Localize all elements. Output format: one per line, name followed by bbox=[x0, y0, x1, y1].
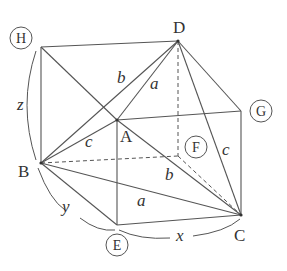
tetrahedron-in-box-diagram: D A B C H G F E b a c c b a z y x bbox=[0, 0, 287, 271]
edge-B-F bbox=[41, 156, 178, 163]
arc-x-2 bbox=[193, 219, 240, 236]
edge-E-C bbox=[117, 215, 241, 225]
svg-text:E: E bbox=[113, 238, 122, 253]
edge-D-G bbox=[178, 41, 241, 111]
svg-text:F: F bbox=[192, 140, 200, 155]
edge-B-E bbox=[41, 163, 117, 225]
label-c-right: c bbox=[222, 140, 230, 159]
edge-B-A bbox=[41, 120, 117, 163]
edge-A-G bbox=[117, 111, 241, 120]
vertex-dot-D bbox=[176, 39, 179, 42]
label-A: A bbox=[120, 127, 133, 146]
circled-label-F: F bbox=[185, 136, 207, 158]
dimension-arcs bbox=[27, 51, 240, 238]
edge-H-A bbox=[41, 47, 117, 120]
label-x: x bbox=[175, 226, 184, 245]
arc-y bbox=[38, 168, 65, 210]
label-b-top: b bbox=[117, 68, 126, 87]
arc-z bbox=[27, 51, 36, 160]
label-D: D bbox=[173, 18, 185, 37]
vertex-dot-B bbox=[39, 161, 42, 164]
arc-x bbox=[119, 230, 170, 238]
circled-label-G: G bbox=[250, 100, 272, 122]
arc-y-2 bbox=[80, 218, 115, 230]
svg-text:H: H bbox=[16, 31, 26, 46]
edge-B-D bbox=[41, 41, 178, 163]
edge-H-D bbox=[41, 41, 178, 47]
vertex-dot-A bbox=[115, 118, 118, 121]
label-a-top: a bbox=[150, 74, 159, 93]
circled-label-E: E bbox=[106, 234, 128, 256]
vertex-dot-C bbox=[239, 213, 242, 216]
edge-A-D bbox=[117, 41, 178, 120]
label-a-bottom: a bbox=[137, 191, 146, 210]
label-B: B bbox=[18, 162, 29, 181]
label-C: C bbox=[234, 226, 245, 245]
edge-F-C bbox=[178, 156, 241, 215]
edge-D-C bbox=[178, 41, 241, 215]
edge-A-C bbox=[117, 120, 241, 215]
label-c-left: c bbox=[85, 132, 93, 151]
svg-text:G: G bbox=[256, 104, 266, 119]
label-z: z bbox=[16, 95, 24, 114]
circled-label-H: H bbox=[10, 27, 32, 49]
label-y: y bbox=[60, 197, 70, 216]
label-b-bottom: b bbox=[165, 165, 174, 184]
tetrahedron-edges bbox=[41, 41, 241, 215]
